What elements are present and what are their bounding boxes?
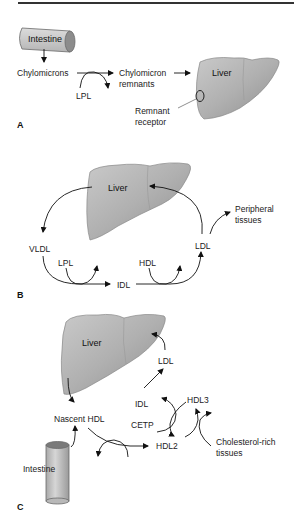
idl-label: IDL [117,280,130,290]
intestine-label: Intestine [28,34,62,44]
peripheral-tissues-label-line2: tissues [235,215,261,225]
vldl-label: VLDL [29,244,50,254]
liver-icon [87,163,191,240]
peripheral-tissues-label-line1: Peripheral [235,204,274,214]
remnant-receptor-label-line1: Remnant [135,106,170,116]
nascent-hdl-label: Nascent HDL [54,414,105,424]
liver-icon [196,58,279,120]
panel-c [46,314,211,504]
remnant-receptor-label-line2: receptor [135,117,166,127]
intestine-label: Intestine [23,464,55,474]
panel-letter-c: C [17,502,24,512]
chylomicrons-label: Chylomicrons [17,68,69,78]
lpl-label: LPL [76,91,91,101]
liver-label: Liver [212,68,232,78]
ldl-label: LDL [158,356,174,366]
cetp-label: CETP [131,420,154,430]
ldl-label: LDL [195,241,211,251]
cholesterol-rich-tissues-label-line2: tissues [216,448,242,458]
liver-label: Liver [82,338,102,348]
hdl-label: HDL [139,258,156,268]
lpl-label: LPL [58,258,73,268]
panel-letter-b: B [17,290,24,300]
panel-letter-a: A [17,120,24,130]
liver-label: Liver [108,183,128,193]
hdl2-label: HDL2 [156,441,178,451]
chylomicron-remnants-label-line1: Chylomicron [119,68,166,78]
hdl3-label: HDL3 [187,395,209,405]
chylomicron-remnants-label-line2: remnants [119,79,154,89]
idl-label: IDL [135,399,148,409]
cholesterol-rich-tissues-label-line1: Cholesterol-rich [216,437,276,447]
